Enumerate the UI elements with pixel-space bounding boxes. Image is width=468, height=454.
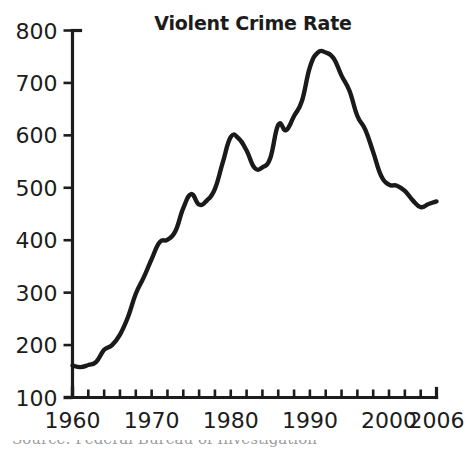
violent-crime-rate-series-line — [73, 51, 437, 367]
y-axis-tick-labels: 100200300400500600700800 — [16, 19, 58, 411]
y-tick-label: 400 — [16, 228, 58, 253]
y-tick-label: 600 — [16, 123, 58, 148]
chart-title: Violent Crime Rate — [154, 12, 352, 34]
x-tick-label: 1980 — [203, 408, 259, 433]
x-tick-label: 1960 — [45, 408, 101, 433]
chart-page: Violent Crime Rate 100200300400500600700… — [0, 0, 468, 454]
y-tick-label: 200 — [16, 333, 58, 358]
footnote-clip: Source: Federal Bureau of Investigation — [0, 440, 468, 454]
x-tick-label: 1970 — [124, 408, 180, 433]
x-axis-tick-labels: 196019701980199020002006 — [45, 408, 465, 433]
violent-crime-rate-chart: Violent Crime Rate 100200300400500600700… — [0, 0, 468, 454]
x-axis-ticks — [73, 387, 437, 398]
y-tick-label: 500 — [16, 176, 58, 201]
source-footnote: Source: Federal Bureau of Investigation — [12, 440, 317, 448]
x-tick-label: 2006 — [409, 408, 465, 433]
y-tick-label: 800 — [16, 19, 58, 44]
x-tick-label: 1990 — [282, 408, 338, 433]
y-tick-label: 300 — [16, 281, 58, 306]
y-tick-label: 700 — [16, 71, 58, 96]
axis-lines — [73, 31, 437, 398]
